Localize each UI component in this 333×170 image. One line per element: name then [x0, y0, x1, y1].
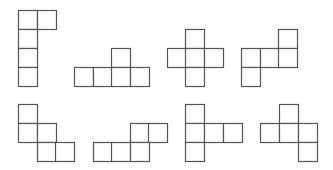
- unit-square: [299, 124, 318, 143]
- unit-square: [75, 68, 94, 87]
- unit-square: [186, 68, 205, 87]
- net-2: [75, 49, 150, 87]
- unit-square: [56, 143, 75, 162]
- unit-square: [186, 30, 205, 49]
- unit-square: [280, 124, 299, 143]
- nets-diagram: [0, 0, 333, 170]
- unit-square: [38, 11, 57, 30]
- unit-square: [19, 124, 38, 143]
- unit-square: [131, 143, 150, 162]
- unit-square: [224, 124, 243, 143]
- unit-square: [242, 68, 261, 87]
- unit-square: [168, 49, 187, 68]
- unit-square: [131, 68, 150, 87]
- net-3: [168, 30, 224, 87]
- unit-square: [261, 124, 280, 143]
- unit-square: [112, 49, 131, 68]
- unit-square: [131, 124, 150, 143]
- unit-square: [279, 49, 298, 68]
- net-1: [19, 11, 57, 87]
- unit-square: [205, 49, 224, 68]
- unit-square: [186, 49, 205, 68]
- unit-square: [19, 30, 38, 49]
- unit-square: [186, 105, 205, 124]
- unit-square: [112, 68, 131, 87]
- unit-square: [38, 143, 57, 162]
- unit-square: [149, 124, 168, 143]
- net-6: [94, 124, 168, 162]
- unit-square: [186, 124, 205, 143]
- unit-square: [19, 105, 38, 124]
- unit-square: [279, 30, 298, 49]
- unit-square: [94, 68, 113, 87]
- unit-square: [205, 124, 224, 143]
- net-7: [186, 105, 243, 162]
- unit-square: [280, 105, 299, 124]
- unit-square: [186, 143, 205, 162]
- net-4: [242, 30, 298, 87]
- unit-square: [19, 11, 38, 30]
- unit-square: [94, 143, 113, 162]
- unit-square: [242, 49, 261, 68]
- unit-square: [38, 124, 57, 143]
- unit-square: [261, 49, 280, 68]
- net-5: [19, 105, 75, 162]
- net-8: [261, 105, 318, 162]
- unit-square: [19, 49, 38, 68]
- unit-square: [19, 68, 38, 87]
- unit-square: [299, 143, 318, 162]
- unit-square: [112, 143, 131, 162]
